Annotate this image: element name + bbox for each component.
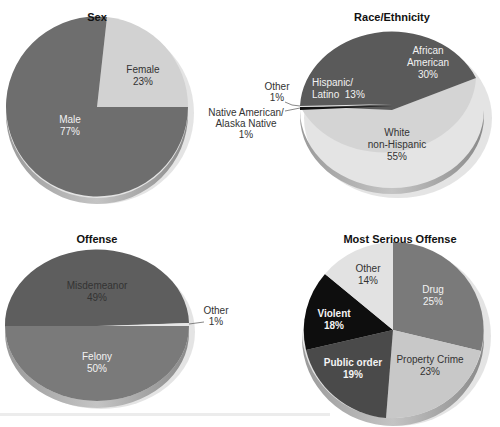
most-serious-pie: [302, 242, 491, 426]
misdemeanor-label: Misdemeanor 49%: [62, 280, 132, 304]
felony-label: Felony 50%: [77, 351, 117, 375]
male-label: Male 77%: [50, 114, 90, 138]
offense-chart-title: Offense: [67, 233, 127, 245]
native-american-label: Native American/ Alaska Native 1%: [204, 107, 288, 140]
violent-label: Violent 18%: [312, 308, 356, 332]
race-chart-title: Race/Ethnicity: [342, 11, 442, 23]
hispanic-label: Hispanic/ Latino 13%: [312, 77, 392, 101]
race-other-label: Other 1%: [262, 81, 292, 103]
female-label: Female 23%: [118, 64, 168, 88]
most-serious-chart-title: Most Serious Offense: [340, 233, 460, 245]
slice-female: [97, 17, 188, 107]
ms-other-label: Other 14%: [350, 263, 386, 287]
offense-pie: [5, 249, 204, 409]
property-crime-label: Property Crime 23%: [390, 354, 470, 378]
white-label: White non-Hispanic 55%: [362, 127, 432, 163]
sex-pie: [6, 16, 194, 204]
offense-other-label: Other 1%: [201, 305, 231, 327]
drug-label: Drug 25%: [413, 284, 453, 308]
bottom-caption-strip: [0, 413, 330, 416]
african-american-label: African American 30%: [398, 45, 458, 81]
race-pie: [285, 32, 492, 198]
sex-chart-title: Sex: [77, 11, 117, 23]
public-order-label: Public order 19%: [318, 357, 388, 381]
